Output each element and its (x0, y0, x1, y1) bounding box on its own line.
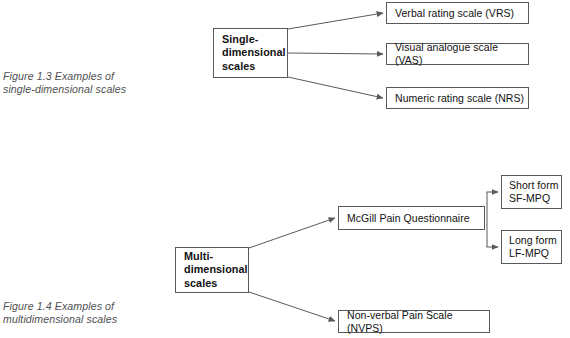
node-label: McGill Pain Questionnaire (347, 212, 484, 225)
connector-single-to-vrs (288, 13, 383, 29)
connector-single-to-nrs (288, 77, 383, 98)
node-verbal-rating-scale[interactable]: Verbal rating scale (VRS) (386, 2, 529, 24)
node-numeric-rating-scale[interactable]: Numeric rating scale (NRS) (386, 87, 529, 109)
node-visual-analogue-scale[interactable]: Visual analogue scale (VAS) (386, 43, 529, 65)
node-mcgill-pain-questionnaire[interactable]: McGill Pain Questionnaire (338, 206, 485, 230)
node-label: Verbal rating scale (VRS) (395, 7, 528, 20)
node-label: Visual analogue scale (VAS) (395, 41, 528, 67)
node-multi-dimensional-scales[interactable]: Multi- dimensional scales (175, 247, 249, 293)
node-label: Long form LF-MPQ (509, 234, 561, 260)
node-single-dimensional-scales[interactable]: Single- dimensional scales (213, 28, 288, 78)
figure-diagram-page: Single- dimensional scales Verbal rating… (0, 0, 570, 338)
node-label: Non-verbal Pain Scale (NVPS) (347, 309, 489, 335)
node-long-form-lf-mpq[interactable]: Long form LF-MPQ (501, 230, 562, 264)
node-label: Short form SF-MPQ (509, 179, 561, 205)
connector-single-to-vas (288, 53, 383, 54)
node-label: Single- dimensional scales (222, 33, 287, 74)
caption-figure-1-4: Figure 1.4 Examples of multidimensional … (3, 300, 183, 325)
node-short-form-sf-mpq[interactable]: Short form SF-MPQ (501, 175, 562, 209)
node-non-verbal-pain-scale[interactable]: Non-verbal Pain Scale (NVPS) (338, 310, 490, 333)
caption-figure-1-3: Figure 1.3 Examples of single-dimensiona… (3, 70, 183, 95)
connector-multi-to-mcgill (249, 218, 335, 248)
node-label: Multi- dimensional scales (184, 250, 248, 291)
node-label: Numeric rating scale (NRS) (395, 92, 528, 105)
connector-multi-to-nvps (249, 292, 335, 321)
